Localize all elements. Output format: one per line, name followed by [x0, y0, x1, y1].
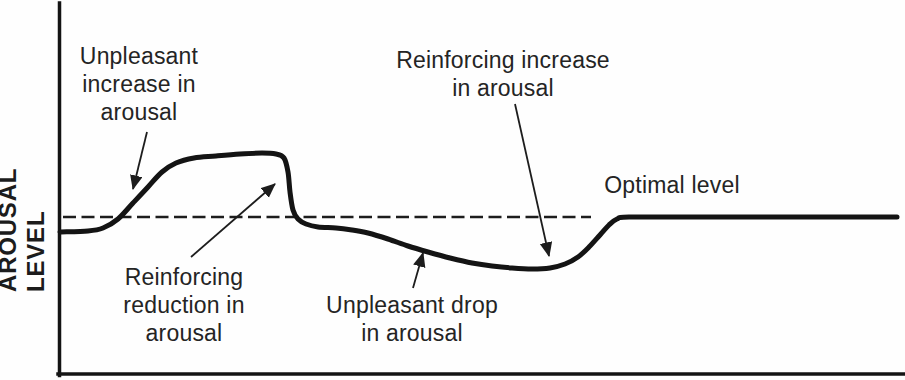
annotation-reinforcing-reduction: Reinforcing reduction in arousal: [123, 263, 244, 347]
annotation-arrow-reinforcing-increase: [515, 104, 549, 256]
annotation-arrow-unpleasant-increase: [133, 132, 147, 189]
annotation-unpleasant-drop: Unpleasant drop in arousal: [326, 291, 498, 347]
arousal-level-figure: AROUSAL LEVEL Unpleasant increase in aro…: [0, 0, 905, 380]
annotation-reinforcing-increase: Reinforcing increase in arousal: [396, 46, 610, 102]
arousal-curve: [60, 153, 897, 269]
annotation-arrow-unpleasant-drop: [413, 253, 423, 288]
annotation-optimal-level: Optimal level: [604, 171, 740, 199]
annotation-arrow-reinforcing-reduction: [191, 184, 275, 257]
annotation-unpleasant-increase: Unpleasant increase in arousal: [80, 42, 198, 126]
